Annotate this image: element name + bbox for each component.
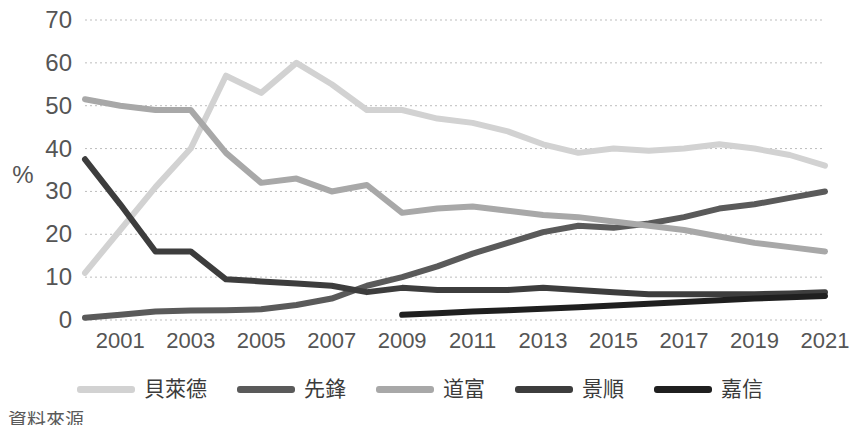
x-tick-2003: 2003 bbox=[156, 330, 226, 352]
x-tick-2001: 2001 bbox=[85, 330, 155, 352]
series-line bbox=[402, 296, 825, 315]
gridlines bbox=[85, 20, 825, 320]
y-tick-60: 60 bbox=[14, 51, 72, 75]
legend-item[interactable]: 道富 bbox=[376, 379, 485, 400]
legend-item[interactable]: 貝萊德 bbox=[77, 379, 207, 400]
x-tick-2019: 2019 bbox=[720, 330, 790, 352]
legend-swatch-icon bbox=[654, 386, 712, 393]
legend-item[interactable]: 景順 bbox=[515, 379, 624, 400]
x-tick-2015: 2015 bbox=[579, 330, 649, 352]
series-line bbox=[85, 63, 825, 273]
x-tick-2007: 2007 bbox=[297, 330, 367, 352]
x-tick-2013: 2013 bbox=[508, 330, 578, 352]
x-tick-2005: 2005 bbox=[226, 330, 296, 352]
legend-swatch-icon bbox=[77, 386, 135, 393]
y-tick-10: 10 bbox=[14, 265, 72, 289]
x-tick-2009: 2009 bbox=[367, 330, 437, 352]
plot-svg bbox=[85, 20, 825, 320]
legend-swatch-icon bbox=[237, 386, 295, 393]
legend-swatch-icon bbox=[376, 386, 434, 393]
series-lines bbox=[85, 63, 825, 318]
footnote-text: 資料來源 bbox=[8, 411, 84, 425]
x-tick-2011: 2011 bbox=[438, 330, 508, 352]
legend-item-label: 道富 bbox=[443, 379, 485, 400]
plot-area bbox=[85, 20, 825, 320]
x-tick-2021: 2021 bbox=[790, 330, 854, 352]
legend-item-label: 景順 bbox=[582, 379, 624, 400]
y-tick-0: 0 bbox=[14, 308, 72, 332]
chart-legend: 貝萊德先鋒道富景順嘉信 bbox=[0, 374, 840, 404]
legend-item-label: 先鋒 bbox=[304, 379, 346, 400]
y-tick-20: 20 bbox=[14, 222, 72, 246]
legend-item-label: 嘉信 bbox=[721, 379, 763, 400]
legend-swatch-icon bbox=[515, 386, 573, 393]
y-tick-40: 40 bbox=[14, 137, 72, 161]
y-tick-70: 70 bbox=[14, 8, 72, 32]
y-tick-50: 50 bbox=[14, 94, 72, 118]
y-tick-30: 30 bbox=[14, 179, 72, 203]
legend-item[interactable]: 先鋒 bbox=[237, 379, 346, 400]
series-line bbox=[85, 159, 825, 294]
legend-item-label: 貝萊德 bbox=[144, 379, 207, 400]
x-tick-2017: 2017 bbox=[649, 330, 719, 352]
legend-item[interactable]: 嘉信 bbox=[654, 379, 763, 400]
